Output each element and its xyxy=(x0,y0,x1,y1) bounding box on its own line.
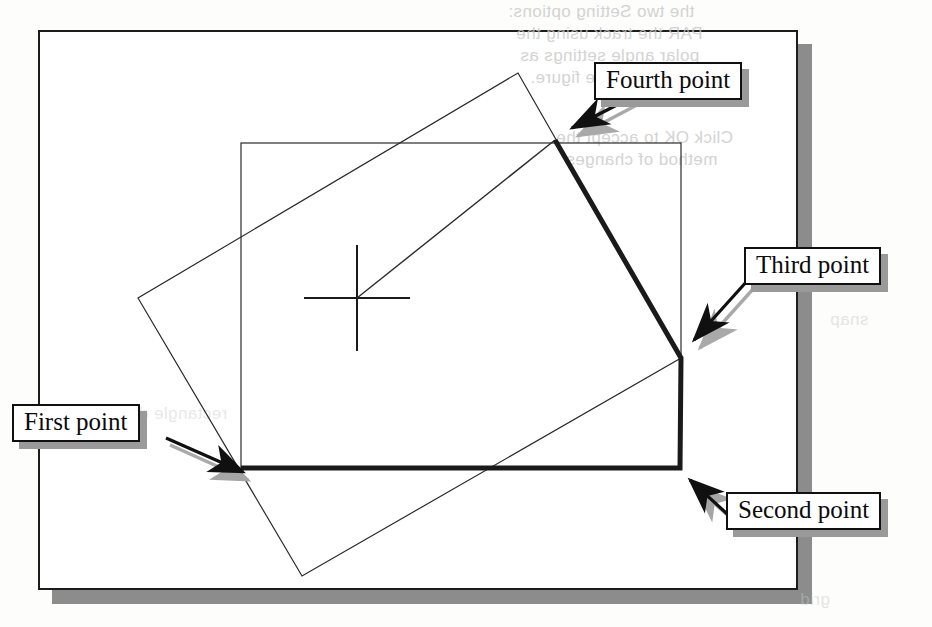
callout-label: Fourth point xyxy=(594,62,742,100)
callout-first-point[interactable]: First point xyxy=(12,404,140,442)
callout-label: Third point xyxy=(744,247,881,285)
callout-fourth-point[interactable]: Fourth point xyxy=(594,62,742,100)
page-frame xyxy=(38,30,798,590)
callout-label: Second point xyxy=(726,492,881,530)
figure-root: the two Setting options: PAR the track u… xyxy=(0,0,932,627)
ghost-text: the two Setting options: xyxy=(508,2,694,22)
callout-third-point[interactable]: Third point xyxy=(744,247,881,285)
ghost-text: snap xyxy=(830,310,868,330)
callout-second-point[interactable]: Second point xyxy=(726,492,881,530)
callout-label: First point xyxy=(12,404,140,442)
